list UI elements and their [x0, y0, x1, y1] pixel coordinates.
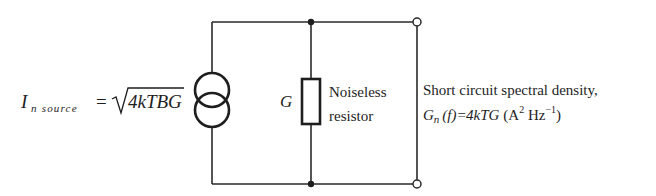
resistor-label-line1: Noiseless: [329, 84, 387, 100]
output-label-line1: Short circuit spectral density,: [423, 82, 598, 98]
gn-subscript: n: [434, 113, 440, 125]
gn-rhs: 4kTG: [466, 107, 500, 123]
source-circle-top-icon: [195, 73, 229, 107]
source-subscript: n source: [31, 102, 78, 114]
source-circle-bottom-icon: [195, 93, 229, 127]
units-close: ): [556, 107, 561, 124]
gn-symbol: G: [423, 107, 434, 123]
resistor-icon: [302, 79, 320, 124]
junction-bottom-dot: [308, 181, 314, 187]
terminal-bottom-icon: [413, 180, 421, 188]
terminal-top-icon: [413, 18, 421, 26]
source-symbol: I: [20, 91, 29, 112]
gn-equals: =: [458, 107, 466, 123]
units-mid: Hz: [524, 107, 546, 123]
junction-top-dot: [308, 19, 314, 25]
noise-current-source: [195, 73, 229, 127]
wires: [212, 22, 417, 184]
circuit-diagram: I n source = 4kTBG G Noiseless resistor …: [0, 0, 656, 196]
source-equals: =: [96, 91, 107, 112]
source-equation: I n source = 4kTBG: [20, 88, 184, 114]
units-open: (A: [503, 107, 519, 124]
gn-argument: (f): [442, 107, 456, 124]
output-label-line2: Gn(f)=4kTG(A2 Hz−1): [423, 104, 561, 125]
resistor-label-line2: resistor: [329, 108, 373, 124]
source-radicand: 4kTBG: [128, 91, 182, 112]
conductance-label: G: [280, 92, 292, 111]
units-sup2: −1: [545, 104, 556, 115]
